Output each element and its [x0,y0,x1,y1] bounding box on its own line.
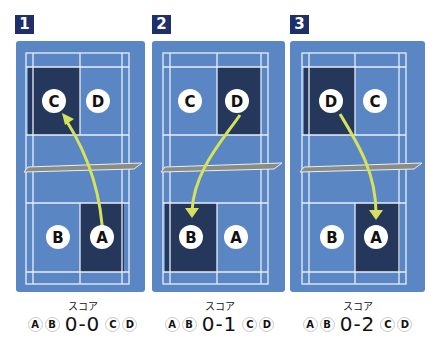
player-c: C [369,93,380,111]
player-b: B [52,229,63,247]
score-player-d: D [122,317,137,332]
player-c: C [184,93,195,111]
badminton-court: D C B A [290,41,425,292]
score-row: A B 0-2 C D [290,313,425,335]
score-player-c: C [105,317,120,332]
score-row: A B 0-0 C D [15,313,150,335]
score-player-a: A [165,317,180,332]
score-label: スコア [152,298,287,313]
player-c: C [48,93,59,111]
score-row: A B 0-1 C D [152,313,287,335]
score-label: スコア [15,298,150,313]
rally-panel-1: 1 C D B A スコア A B 0-0 C D [15,0,150,345]
player-d: D [325,93,337,111]
score-player-c: C [242,317,257,332]
step-badge: 1 [15,15,34,34]
score-player-a: A [28,317,43,332]
player-b: B [185,229,196,247]
score-value: 0-0 [65,313,101,335]
score-player-a: A [303,317,318,332]
player-a: A [230,229,242,247]
score-player-d: D [397,317,412,332]
score-player-b: B [45,317,60,332]
score-player-b: B [320,317,335,332]
score-player-d: D [259,317,274,332]
score-player-b: B [182,317,197,332]
badminton-court: C D B A [16,41,145,292]
badminton-court: C D B A [152,41,285,292]
player-d: D [92,93,104,111]
player-a: A [96,229,108,247]
player-d: D [231,93,243,111]
rally-panel-3: 3 D C B A スコア A B 0-2 C D [290,0,425,345]
score-player-c: C [380,317,395,332]
score-value: 0-2 [340,313,376,335]
step-badge: 2 [152,15,171,34]
score-value: 0-1 [202,313,238,335]
score-label: スコア [290,298,425,313]
player-b: B [326,229,337,247]
step-badge: 3 [290,15,309,34]
player-a: A [370,229,382,247]
rally-panel-2: 2 C D B A スコア A B 0-1 C D [152,0,287,345]
